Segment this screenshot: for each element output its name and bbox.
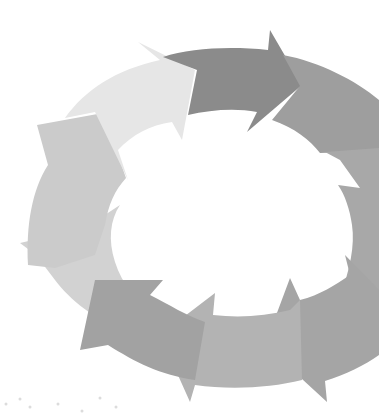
scan-dots: [5, 397, 118, 413]
cycle-diagram: [0, 0, 379, 418]
